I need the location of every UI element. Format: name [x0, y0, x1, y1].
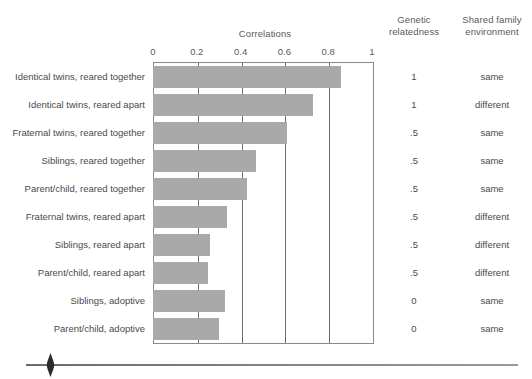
cell-genetic-relatedness: .5: [378, 262, 450, 284]
bar: [153, 290, 225, 312]
x-axis-tick-labels: 00.20.40.60.81: [0, 46, 532, 60]
cell-shared-family-environment: same: [452, 290, 532, 312]
cell-shared-family-environment: same: [452, 150, 532, 172]
bar: [153, 66, 341, 88]
cell-genetic-relatedness: 0: [378, 318, 450, 340]
genetic-relatedness-header-line2: relatedness: [378, 26, 450, 38]
cell-shared-family-environment: same: [452, 122, 532, 144]
cell-genetic-relatedness: .5: [378, 206, 450, 228]
bar-row: [153, 66, 372, 88]
x-axis-tick-0p8: 0.8: [322, 46, 335, 57]
row-label: Identical twins, reared apart: [0, 94, 145, 116]
bar: [153, 262, 208, 284]
bar: [153, 318, 219, 340]
bar-row: [153, 122, 372, 144]
column-header-genetic-relatedness: Genetic relatedness: [378, 14, 450, 37]
correlation-bar-chart-figure: Correlations Genetic relatedness Shared …: [0, 0, 532, 379]
bar-row: [153, 94, 372, 116]
cell-genetic-relatedness: 1: [378, 94, 450, 116]
cell-genetic-relatedness: .5: [378, 150, 450, 172]
chart-title-correlations: Correlations: [205, 28, 325, 40]
footer-divider-rule: [26, 364, 518, 366]
row-label: Fraternal twins, reared together: [0, 122, 145, 144]
x-axis-tick-1: 1: [369, 46, 374, 57]
row-label: Fraternal twins, reared apart: [0, 206, 145, 228]
cell-genetic-relatedness: .5: [378, 234, 450, 256]
bar-row: [153, 206, 372, 228]
x-axis-tick-0: 0: [150, 46, 155, 57]
row-label: Parent/child, reared together: [0, 178, 145, 200]
row-label: Parent/child, adoptive: [0, 318, 145, 340]
bar-row: [153, 318, 372, 340]
cell-shared-family-environment: same: [452, 178, 532, 200]
x-axis-tick-0p6: 0.6: [278, 46, 291, 57]
cell-genetic-relatedness: 1: [378, 66, 450, 88]
diamond-ornament-icon: [45, 353, 56, 377]
shared-environment-header-line2: environment: [452, 26, 532, 38]
bar-row: [153, 178, 372, 200]
bar-row: [153, 234, 372, 256]
cell-shared-family-environment: different: [452, 94, 532, 116]
row-label: Siblings, reared apart: [0, 234, 145, 256]
bar-row: [153, 262, 372, 284]
cell-shared-family-environment: different: [452, 206, 532, 228]
bar-row: [153, 290, 372, 312]
bar: [153, 234, 210, 256]
cell-genetic-relatedness: .5: [378, 122, 450, 144]
cell-shared-family-environment: same: [452, 66, 532, 88]
bar: [153, 178, 247, 200]
bar: [153, 94, 313, 116]
cell-shared-family-environment: different: [452, 262, 532, 284]
x-axis-tick-0p2: 0.2: [190, 46, 203, 57]
row-label: Siblings, reared together: [0, 150, 145, 172]
bar: [153, 122, 287, 144]
row-label: Parent/child, reared apart: [0, 262, 145, 284]
row-label: Siblings, adoptive: [0, 290, 145, 312]
cell-genetic-relatedness: .5: [378, 178, 450, 200]
bar-row: [153, 150, 372, 172]
cell-shared-family-environment: different: [452, 234, 532, 256]
bar: [153, 150, 256, 172]
shared-environment-header-line1: Shared family: [452, 14, 532, 26]
cell-genetic-relatedness: 0: [378, 290, 450, 312]
column-header-shared-family-environment: Shared family environment: [452, 14, 532, 37]
bar: [153, 206, 227, 228]
row-label: Identical twins, reared together: [0, 66, 145, 88]
genetic-relatedness-header-line1: Genetic: [378, 14, 450, 26]
cell-shared-family-environment: same: [452, 318, 532, 340]
x-axis-tick-0p4: 0.4: [234, 46, 247, 57]
